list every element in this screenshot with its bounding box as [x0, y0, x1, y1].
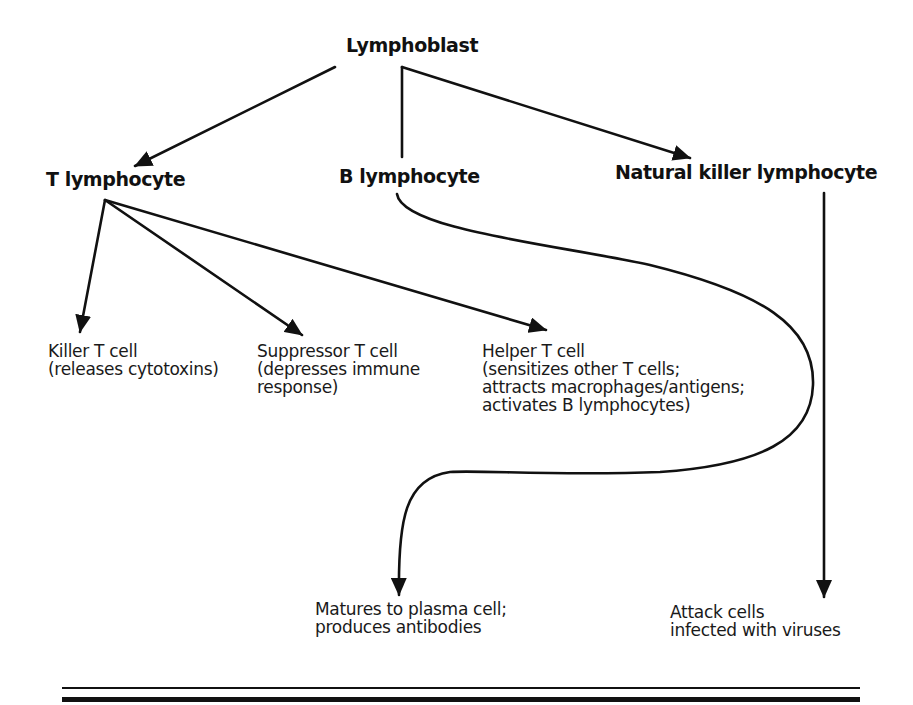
- killer-t-function: (releases cytotoxins): [48, 360, 219, 378]
- nk-function-line-1: Attack cells: [670, 603, 841, 621]
- nk-function-line-2: infected with viruses: [670, 621, 841, 639]
- arrow-t-to-killer: [80, 200, 105, 332]
- node-plasma-cell: Matures to plasma cell; produces antibod…: [315, 600, 507, 636]
- node-t-lymphocyte: T lymphocyte: [46, 170, 185, 189]
- arrow-lymphoblast-to-t: [135, 67, 335, 166]
- node-helper-t-cell: Helper T cell (sensitizes other T cells;…: [482, 342, 745, 414]
- arrow-t-to-helper: [105, 200, 546, 330]
- node-lymphoblast: Lymphoblast: [346, 36, 478, 55]
- node-suppressor-t-cell: Suppressor T cell (depresses immune resp…: [257, 342, 420, 396]
- node-killer-t-cell: Killer T cell (releases cytotoxins): [48, 342, 219, 378]
- arrow-lymphoblast-to-nk: [402, 67, 690, 158]
- divider-thick: [62, 697, 860, 702]
- lymphocyte-diagram: Lymphoblast T lymphocyte B lymphocyte Na…: [0, 0, 913, 705]
- node-b-lymphocyte: B lymphocyte: [339, 167, 480, 186]
- suppressor-t-function-1: (depresses immune: [257, 360, 420, 378]
- helper-t-title: Helper T cell: [482, 342, 745, 360]
- divider-thin: [62, 687, 860, 689]
- plasma-line-1: Matures to plasma cell;: [315, 600, 507, 618]
- node-nk-function: Attack cells infected with viruses: [670, 603, 841, 639]
- helper-t-function-1: (sensitizes other T cells;: [482, 360, 745, 378]
- helper-t-function-3: activates B lymphocytes): [482, 396, 745, 414]
- arrow-t-to-suppressor: [105, 200, 302, 335]
- suppressor-t-function-2: response): [257, 378, 420, 396]
- plasma-line-2: produces antibodies: [315, 618, 507, 636]
- helper-t-function-2: attracts macrophages/antigens;: [482, 378, 745, 396]
- node-natural-killer-lymphocyte: Natural killer lymphocyte: [615, 163, 877, 182]
- suppressor-t-title: Suppressor T cell: [257, 342, 420, 360]
- killer-t-title: Killer T cell: [48, 342, 219, 360]
